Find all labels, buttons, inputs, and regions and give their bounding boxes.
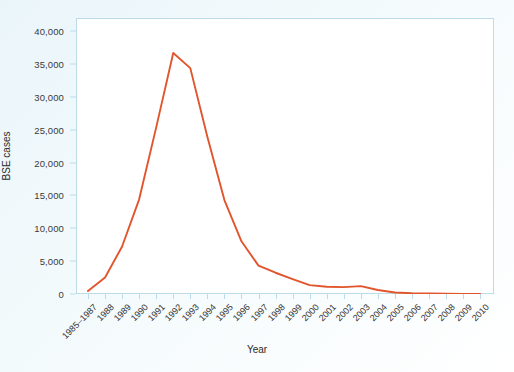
x-tick-mark [241,294,242,299]
x-tick-label: 1989 [112,302,133,323]
plot-area [76,18,494,294]
x-tick-mark [190,294,191,299]
x-tick-label: 1996 [231,302,252,323]
x-tick-mark [224,294,225,299]
line-path [88,53,480,294]
x-tick-label: 1990 [129,302,150,323]
x-tick-label: 2002 [334,302,355,323]
x-tick-mark [446,294,447,299]
x-tick-label: 2008 [436,302,457,323]
x-tick-label: 2007 [419,302,440,323]
x-tick-mark [378,294,379,299]
x-tick-mark [139,294,140,299]
x-tick-mark [276,294,277,299]
x-tick-mark [122,294,123,299]
x-tick-label: 2006 [402,302,423,323]
x-tick-mark [344,294,345,299]
x-tick-label: 1994 [197,302,218,323]
x-tick-label: 2003 [351,302,372,323]
x-tick-mark [480,294,481,299]
x-tick-mark [310,294,311,299]
x-tick-label: 2009 [453,302,474,323]
x-tick-mark [327,294,328,299]
x-tick-mark [105,294,106,299]
x-tick-label: 1988 [95,302,116,323]
x-tick-label: 1998 [265,302,286,323]
x-tick-mark [395,294,396,299]
series-bse-cases [76,18,494,294]
x-tick-label: 1995 [214,302,235,323]
x-tick-mark [412,294,413,299]
x-tick-mark [429,294,430,299]
x-tick-mark [463,294,464,299]
x-tick-label: 2010 [470,302,491,323]
x-tick-mark [207,294,208,299]
x-tick-label: 1997 [248,302,269,323]
x-tick-mark [173,294,174,299]
chart-figure: 05,00010,00015,00020,00025,00030,00035,0… [0,0,514,372]
x-tick-label: 2000 [299,302,320,323]
x-tick-label: 2001 [317,302,338,323]
x-tick-label: 1992 [163,302,184,323]
x-tick-mark [259,294,260,299]
x-tick-label: 1985–1987 [60,302,99,341]
x-tick-label: 2004 [368,302,389,323]
x-tick-mark [88,294,89,299]
x-tick-mark [156,294,157,299]
x-tick-label: 1999 [282,302,303,323]
x-axis-title: Year [0,344,514,355]
x-tick-label: 1993 [180,302,201,323]
x-tick-label: 1991 [146,302,167,323]
x-tick-mark [293,294,294,299]
x-tick-mark [361,294,362,299]
x-tick-label: 2005 [385,302,406,323]
